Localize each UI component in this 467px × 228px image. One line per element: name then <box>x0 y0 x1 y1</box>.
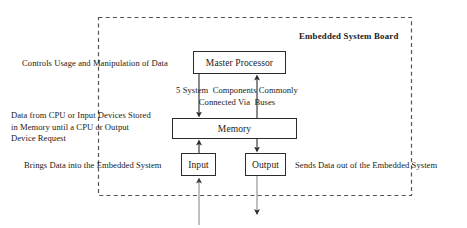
annotation-output-description: Sends Data out of the Embedded System <box>295 160 437 172</box>
node-master-processor[interactable]: Master Processor <box>193 51 286 74</box>
annotation-memory-description-line1: Data from CPU or Input Devices Stored <box>11 110 151 120</box>
diagram-canvas: Embedded System Board Master Processor M… <box>0 0 467 228</box>
node-memory[interactable]: Memory <box>172 118 297 139</box>
annotation-memory-description: Data from CPU or Input Devices Storedin … <box>11 110 151 145</box>
node-output[interactable]: Output <box>245 153 286 176</box>
annotation-bus-note: 5 System Components CommonlyConnected Vi… <box>166 85 308 108</box>
embedded-system-board-title: Embedded System Board <box>299 31 399 43</box>
annotation-memory-description-line3: Device Request <box>11 133 66 143</box>
annotation-input-description: Brings Data into the Embedded System <box>24 160 162 172</box>
annotation-memory-description-line2: in Memory until a CPU or Output <box>11 122 129 132</box>
annotation-bus-note-line2: Connected Via Buses <box>199 97 275 107</box>
annotation-bus-note-line1: 5 System Components Commonly <box>176 85 298 95</box>
node-input[interactable]: Input <box>181 153 216 176</box>
annotation-controls-usage: Controls Usage and Manipulation of Data <box>22 58 168 70</box>
